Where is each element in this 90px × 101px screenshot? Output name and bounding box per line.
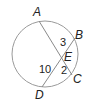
length-label-ec: 2 xyxy=(61,64,67,76)
point-label-d: D xyxy=(35,88,44,101)
circle-chords-diagram: A B C D E 3 2 10 xyxy=(0,0,90,101)
point-label-b: B xyxy=(75,28,83,42)
point-label-a: A xyxy=(32,5,41,19)
length-label-eb: 3 xyxy=(60,36,66,48)
length-label-de: 10 xyxy=(39,63,51,75)
point-label-c: C xyxy=(73,72,82,86)
point-label-e: E xyxy=(64,50,73,64)
